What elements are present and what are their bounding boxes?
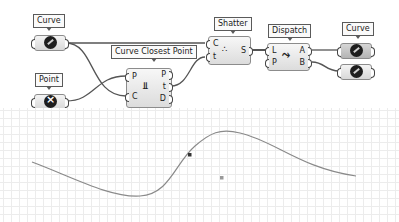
input-grip[interactable] [31, 39, 35, 49]
curve-param-tag: Curve [33, 14, 65, 28]
port-label: B [300, 58, 306, 67]
dispatch-input-l[interactable]: L [272, 46, 276, 56]
shatter-component[interactable]: C t ∴ S [208, 36, 251, 65]
closest-point-marker[interactable] [188, 153, 192, 157]
dispatch-input-p[interactable]: P [272, 58, 277, 68]
dispatch-output-b[interactable]: B [300, 58, 306, 68]
shatter-input-c[interactable]: C [213, 39, 219, 49]
port-label: C [132, 92, 138, 101]
curve-output-param-a[interactable] [340, 43, 372, 59]
port-label: D [160, 94, 166, 103]
dispatch-tag: Dispatch [268, 24, 311, 38]
shatter-output-s[interactable]: S [241, 46, 246, 56]
port-label: S [241, 46, 246, 55]
port-label: P [161, 70, 166, 79]
input-grip[interactable] [31, 98, 35, 108]
shatter-input-t[interactable]: t [213, 52, 216, 62]
point-icon [44, 95, 57, 108]
ccp-output-t[interactable]: t [163, 82, 166, 92]
nurbs-curve[interactable] [32, 131, 356, 196]
curve-icon [350, 65, 363, 78]
viewport-geometry [0, 108, 399, 222]
input-grip[interactable] [337, 68, 341, 78]
ccp-tag: Curve Closest Point [111, 45, 197, 59]
port-label: C [213, 39, 219, 48]
port-label: A [300, 46, 305, 55]
shatter-icon: ∴ [222, 44, 228, 54]
port-label: P [272, 58, 277, 67]
grasshopper-canvas[interactable]: Curve Point Curve Closest Point P C ⫫ P … [0, 0, 399, 108]
curve-icon [44, 36, 57, 49]
rhino-viewport[interactable] [0, 108, 399, 222]
dispatch-icon: ⤳ [282, 49, 290, 61]
closest-point-icon: ⫫ [142, 80, 148, 92]
port-label: t [163, 82, 166, 91]
dispatch-component[interactable]: L P ⤳ A B [267, 43, 310, 71]
shatter-tag: Shatter [214, 17, 252, 31]
ccp-input-p[interactable]: P [132, 72, 137, 82]
ccp-output-p[interactable]: P [161, 70, 166, 80]
ccp-output-d[interactable]: D [160, 94, 166, 104]
curve-param[interactable] [34, 35, 66, 51]
curve-output-tag: Curve [342, 22, 374, 36]
curve-output-param-b[interactable] [340, 64, 372, 80]
port-label: t [213, 52, 216, 61]
dispatch-output-a[interactable]: A [300, 46, 305, 56]
input-grip[interactable] [337, 47, 341, 57]
point-param-tag: Point [35, 73, 63, 87]
port-label: L [272, 46, 276, 55]
curve-closest-point-component[interactable]: P C ⫫ P t D [126, 68, 172, 108]
input-point-marker[interactable] [220, 176, 224, 180]
curve-icon [350, 44, 363, 57]
port-label: P [132, 72, 137, 81]
ccp-input-c[interactable]: C [132, 92, 138, 102]
